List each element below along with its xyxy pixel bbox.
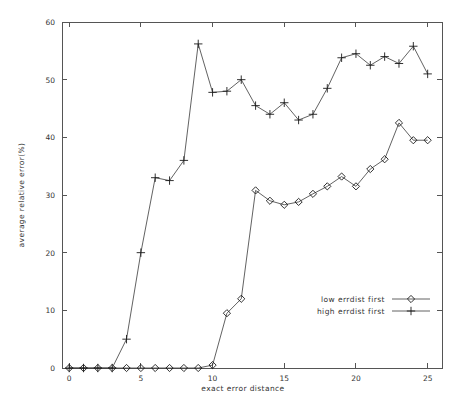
plus-marker-icon xyxy=(366,61,374,69)
plus-marker-icon xyxy=(165,176,173,184)
series-diamond xyxy=(66,119,432,371)
plus-marker-icon xyxy=(180,156,188,164)
y-tick-label: 10 xyxy=(45,306,55,315)
x-tick-label: 20 xyxy=(351,374,361,383)
axis-box xyxy=(62,22,442,368)
plus-marker-icon xyxy=(223,87,231,95)
plus-marker-icon xyxy=(79,364,87,372)
plus-marker-icon xyxy=(323,84,331,92)
plus-marker-icon xyxy=(251,101,259,109)
plus-icon xyxy=(407,307,415,315)
x-tick-label: 0 xyxy=(67,374,72,383)
x-tick-label: 25 xyxy=(423,374,433,383)
plus-marker-icon xyxy=(151,174,159,182)
y-tick-label: 30 xyxy=(45,191,55,200)
x-axis-ticks: 0510152025 xyxy=(67,22,433,383)
y-axis-title: average relative error(%) xyxy=(17,143,26,248)
legend-label: low errdist first xyxy=(321,295,385,304)
plus-marker-icon xyxy=(137,248,145,256)
plus-marker-icon xyxy=(380,52,388,60)
series-polyline xyxy=(69,123,427,368)
y-tick-label: 60 xyxy=(45,18,55,27)
plus-marker-icon xyxy=(65,364,73,372)
plus-marker-icon xyxy=(194,40,202,48)
plus-marker-icon xyxy=(266,110,274,118)
plus-marker-icon xyxy=(352,50,360,58)
plus-marker-icon xyxy=(94,364,102,372)
plus-marker-icon xyxy=(108,364,116,372)
series-plus xyxy=(65,40,432,372)
x-axis-title: exact error distance xyxy=(201,384,284,393)
y-axis-ticks: 0102030405060 xyxy=(45,18,442,373)
chart-plot-area: 0510152025 0102030405060 low errdist fir… xyxy=(0,0,466,409)
legend-label: high errdist first xyxy=(317,307,385,316)
y-tick-label: 20 xyxy=(45,249,55,258)
axis-frame xyxy=(62,22,442,368)
chart-figure: 0510152025 0102030405060 low errdist fir… xyxy=(0,0,466,409)
x-tick-label: 15 xyxy=(279,374,289,383)
plus-marker-icon xyxy=(122,335,130,343)
plus-marker-icon xyxy=(337,54,345,62)
plus-marker-icon xyxy=(208,88,216,96)
x-tick-label: 10 xyxy=(208,374,218,383)
plus-marker-icon xyxy=(309,110,317,118)
y-tick-label: 0 xyxy=(50,364,55,373)
x-tick-label: 5 xyxy=(138,374,143,383)
y-tick-label: 40 xyxy=(45,133,55,142)
data-series-layer xyxy=(65,40,432,372)
y-tick-label: 50 xyxy=(45,76,55,85)
plus-marker-icon xyxy=(423,70,431,78)
plus-marker-icon xyxy=(237,75,245,83)
series-polyline xyxy=(69,44,427,368)
chart-legend: low errdist firsthigh errdist first xyxy=(317,295,430,316)
